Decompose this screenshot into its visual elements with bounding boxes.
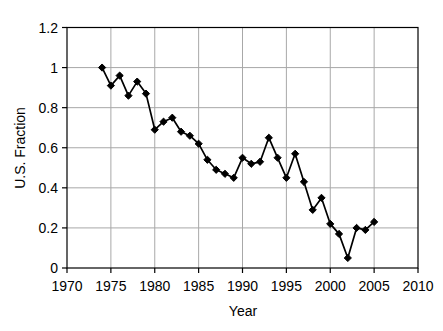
data-point	[274, 154, 281, 161]
data-point	[256, 158, 263, 165]
ticks-group	[62, 28, 418, 274]
y-axis-title: U.S. Fraction	[12, 107, 28, 189]
chart-figure: 00.20.40.60.811.219701975198019851990199…	[0, 0, 443, 331]
data-point	[221, 170, 228, 177]
data-point	[292, 150, 299, 157]
y-tick-label: 0.6	[39, 140, 59, 156]
x-tick-label: 1980	[139, 278, 170, 294]
data-point	[300, 178, 307, 185]
data-series-group	[99, 64, 378, 262]
x-tick-label: 1970	[51, 278, 82, 294]
x-tick-label: 1985	[183, 278, 214, 294]
data-point	[265, 134, 272, 141]
y-tick-label: 0.4	[39, 180, 59, 196]
x-axis-title: Year	[229, 303, 258, 319]
y-tick-label: 1	[50, 60, 58, 76]
series-line	[102, 68, 374, 258]
data-point	[344, 254, 351, 261]
data-point	[230, 174, 237, 181]
y-tick-label: 0	[50, 260, 58, 276]
data-point	[99, 64, 106, 71]
x-tick-label: 1975	[95, 278, 126, 294]
x-tick-label: 1990	[227, 278, 258, 294]
line-chart: 00.20.40.60.811.219701975198019851990199…	[0, 0, 443, 331]
y-tick-label: 0.2	[39, 220, 59, 236]
x-tick-label: 2010	[402, 278, 433, 294]
y-tick-label: 0.8	[39, 100, 59, 116]
x-tick-label: 2000	[315, 278, 346, 294]
y-tick-label: 1.2	[39, 20, 59, 36]
data-point	[353, 224, 360, 231]
x-tick-label: 2005	[359, 278, 390, 294]
data-point	[283, 174, 290, 181]
x-tick-label: 1995	[271, 278, 302, 294]
